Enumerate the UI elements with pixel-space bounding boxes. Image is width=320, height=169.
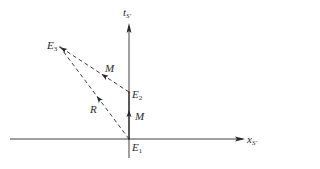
event-e1-label: E1 — [132, 142, 142, 155]
t-axis-label: tS' — [123, 7, 131, 20]
event-e2-label: E2 — [132, 89, 142, 102]
t-axis-label-sub: S' — [126, 12, 131, 20]
event-e2-label-sub: 2 — [139, 94, 143, 102]
event-e1-point — [128, 138, 130, 140]
vector-e1-e3-arrow-icon — [95, 94, 103, 103]
event-e2-point — [128, 91, 130, 93]
x-axis-label-sub: S' — [252, 139, 257, 147]
event-e3-point — [59, 46, 61, 48]
event-e3-label-sub: 3 — [54, 45, 58, 53]
vector-e1-e2 — [127, 92, 132, 139]
event-e3-label-main: E — [47, 39, 54, 51]
vector-e2-e3 — [59, 45, 129, 92]
x-axis-label: xS' — [247, 134, 257, 147]
vector-e2-e3-label: M — [105, 63, 114, 74]
vector-e1-e3-label: R — [90, 104, 97, 115]
event-e2-label-main: E — [132, 88, 139, 100]
event-e1-label-sub: 1 — [139, 147, 143, 155]
vector-e1-e3 — [60, 47, 129, 139]
vector-e1-e2-label: M — [135, 111, 144, 122]
event-e1-label-main: E — [132, 141, 139, 153]
event-e3-label: E3 — [47, 40, 57, 53]
